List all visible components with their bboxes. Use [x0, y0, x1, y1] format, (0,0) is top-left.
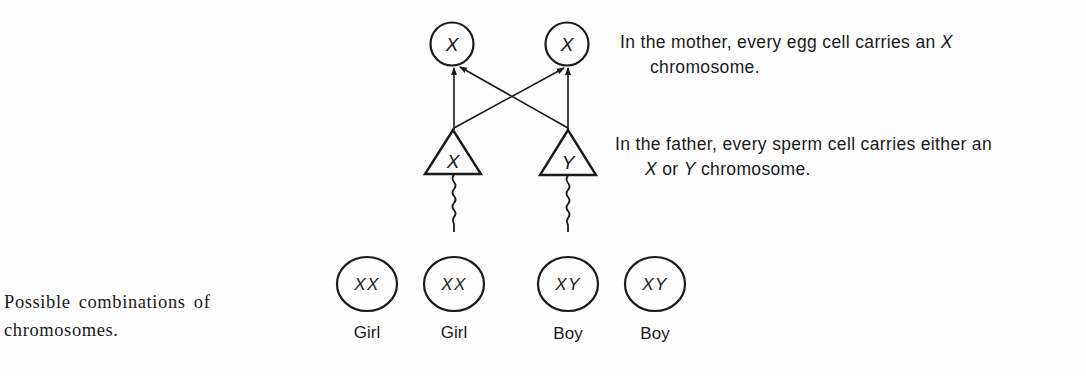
sperm-cell-y: Y: [540, 130, 596, 232]
sperm-cell-x-label: X: [446, 151, 461, 172]
mother-description: In the mother, every egg cell carries an…: [620, 30, 953, 80]
combinations-caption-line1: Possible combinations of: [4, 288, 210, 316]
offspring-combination-1: XX Girl: [337, 257, 397, 342]
egg-cell-1: X: [431, 23, 474, 66]
egg-cell-1-label: X: [445, 34, 460, 55]
father-description-x: X: [645, 159, 657, 179]
father-description-line1: In the father, every sperm cell carries …: [615, 134, 992, 154]
sex-label: Girl: [354, 323, 380, 342]
mother-description-line1: In the mother, every egg cell carries an: [620, 32, 941, 52]
arrow-spermX-to-egg2: [454, 68, 564, 128]
genotype-label: XY: [554, 275, 581, 294]
sex-label: Boy: [640, 324, 670, 343]
sex-label: Girl: [441, 323, 467, 342]
sperm-cell-y-label: Y: [562, 152, 576, 173]
father-description-y: Y: [684, 159, 696, 179]
combinations-caption: Possible combinations of chromosomes.: [4, 288, 210, 344]
egg-cell-2-label: X: [560, 34, 575, 55]
egg-cell-2: X: [546, 23, 589, 66]
sperm-tail-x: [453, 175, 456, 232]
offspring-combination-3: XY Boy: [538, 257, 598, 343]
combinations-caption-line2: chromosomes.: [4, 316, 210, 344]
offspring-combination-4: XY Boy: [625, 257, 685, 343]
father-description-end: chromosome.: [696, 159, 811, 179]
offspring-combination-2: XX Girl: [424, 257, 484, 342]
genotype-label: XX: [440, 275, 467, 294]
father-description-line2: X or Y chromosome.: [615, 157, 992, 182]
father-description: In the father, every sperm cell carries …: [615, 132, 992, 182]
sex-label: Boy: [553, 324, 583, 343]
mother-description-x: X: [941, 32, 953, 52]
fertilization-arrows: [454, 67, 568, 130]
sperm-cell-x: X: [425, 130, 481, 232]
genotype-label: XY: [641, 275, 668, 294]
arrow-spermY-to-egg1: [460, 67, 568, 128]
genotype-label: XX: [353, 275, 380, 294]
sperm-tail-y: [567, 176, 570, 232]
father-description-or: or: [657, 159, 684, 179]
mother-description-line2: chromosome.: [620, 55, 953, 80]
